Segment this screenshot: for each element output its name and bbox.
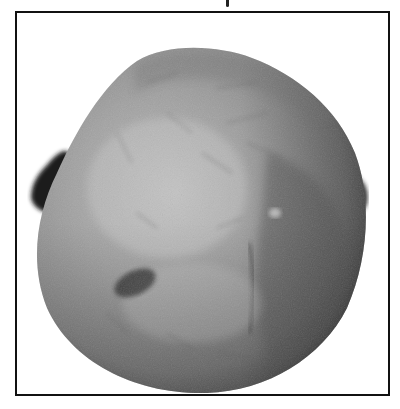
- image-frame: [15, 11, 390, 396]
- specimen-photo: [17, 13, 388, 394]
- cropped-glyph: [226, 0, 229, 7]
